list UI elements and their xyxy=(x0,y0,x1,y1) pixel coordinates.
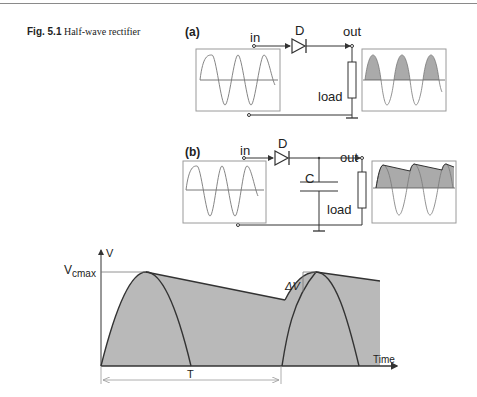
diode-label: D xyxy=(295,23,304,38)
delta-v-label: ΔV xyxy=(284,280,301,292)
diode-icon xyxy=(292,39,305,53)
load-label: load xyxy=(327,202,352,217)
circuit-a-label: (a) xyxy=(185,25,200,39)
output-scope-b xyxy=(372,161,456,223)
output-scope-a xyxy=(362,49,446,111)
in-label: in xyxy=(240,143,250,158)
out-label: out xyxy=(343,24,361,39)
input-scope-a xyxy=(196,49,280,111)
circuit-a: (a) in D out load xyxy=(185,23,446,118)
period-label: T xyxy=(187,368,194,380)
y-axis-label: V xyxy=(106,247,114,259)
circuit-b-label: (b) xyxy=(185,145,200,159)
rectifier-diagram: (a) in D out load xyxy=(0,0,477,397)
load-label: load xyxy=(318,89,343,104)
load-resistor-icon xyxy=(348,62,356,98)
circuit-b: (b) in D C out load xyxy=(183,136,456,231)
input-scope-b xyxy=(183,161,266,223)
diode-label: D xyxy=(278,136,287,151)
ripple-waveform: V Vcmax ΔV Time T xyxy=(64,247,397,384)
x-axis-label: Time xyxy=(373,354,395,365)
in-label: in xyxy=(250,30,260,45)
diode-icon xyxy=(275,151,288,165)
capacitor-label: C xyxy=(305,171,314,186)
load-resistor-icon xyxy=(358,172,366,208)
vcmax-label: Vcmax xyxy=(64,263,96,279)
